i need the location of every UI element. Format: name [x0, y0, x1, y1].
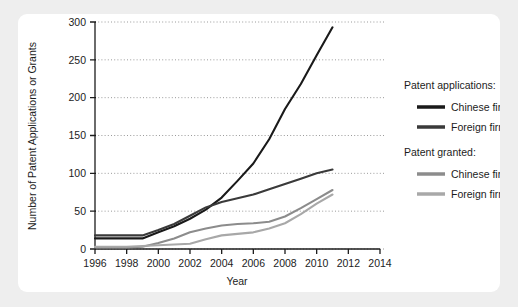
- line-chart: 050100150200250300 199619982000200220042…: [18, 14, 500, 292]
- x-tick-label: 2010: [305, 257, 329, 269]
- x-tick-label: 2002: [178, 257, 202, 269]
- legend-heading-granted: Patent granted:: [404, 146, 476, 158]
- chart-legend: Patent applications: Chinese firms Forei…: [404, 79, 500, 200]
- x-tick-label: 2012: [337, 257, 361, 269]
- x-axis-title: Year: [226, 275, 248, 287]
- y-axis-tick-labels: 050100150200250300: [68, 16, 86, 255]
- y-tick-label: 200: [68, 91, 86, 103]
- chart-card: 050100150200250300 199619982000200220042…: [18, 14, 500, 292]
- y-tick-label: 50: [74, 205, 86, 217]
- x-tick-label: 2000: [147, 257, 171, 269]
- y-tick-label: 100: [68, 167, 86, 179]
- x-tick-label: 2008: [273, 257, 297, 269]
- gridlines: [95, 22, 386, 249]
- x-tick-label: 2004: [210, 257, 234, 269]
- y-tick-label: 250: [68, 54, 86, 66]
- y-tick-label: 300: [68, 16, 86, 28]
- y-tick-label: 0: [80, 243, 86, 255]
- x-tick-label: 2006: [242, 257, 266, 269]
- series-line: [95, 27, 333, 238]
- x-tick-label: 1998: [115, 257, 139, 269]
- legend-label-granted-foreign: Foreign firms: [451, 188, 500, 200]
- legend-label-granted-chinese: Chinese firms: [451, 168, 500, 180]
- y-tick-label: 150: [68, 129, 86, 141]
- x-axis-tick-labels: 1996199820002002200420062008201020122014: [83, 257, 392, 269]
- plot-area: 050100150200250300 199619982000200220042…: [18, 14, 500, 292]
- legend-label-applications-foreign: Foreign firms: [451, 121, 500, 133]
- legend-label-applications-chinese: Chinese firms: [451, 101, 500, 113]
- x-tick-label: 2014: [368, 257, 392, 269]
- x-tick-label: 1996: [83, 257, 107, 269]
- legend-heading-applications: Patent applications:: [404, 79, 496, 91]
- x-axis-ticks: [95, 249, 380, 254]
- y-axis-title: Number of Patent Applications or Grants: [26, 42, 38, 230]
